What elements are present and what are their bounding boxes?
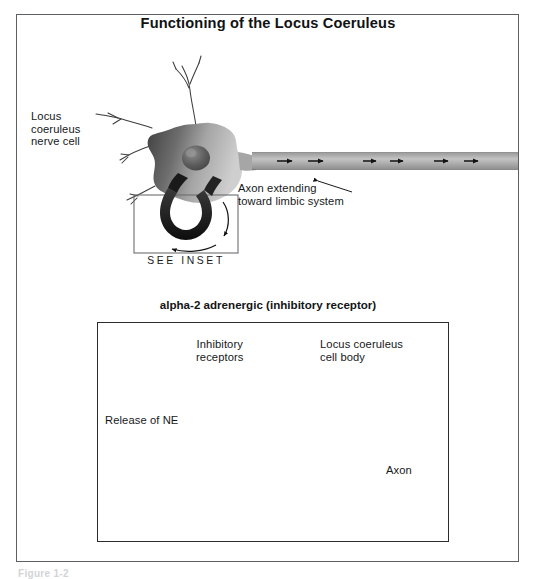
label-axon-extending: Axon extending toward limbic system: [238, 182, 344, 207]
label-inset-axon: Axon: [386, 464, 412, 477]
figure-caption: Figure 1-2: [18, 568, 69, 579]
figure-root: Functioning of the Locus Coeruleus: [0, 0, 536, 579]
label-locus-coeruleus-nerve-cell: Locus coeruleus nerve cell: [31, 110, 80, 148]
label-release-of-ne: Release of NE: [105, 414, 178, 427]
label-see-inset: SEE INSET: [133, 255, 239, 266]
label-inhibitory-receptors: Inhibitory receptors: [196, 338, 244, 363]
inset-title: alpha-2 adrenergic (inhibitory receptor): [0, 298, 536, 311]
page-title: Functioning of the Locus Coeruleus: [0, 15, 536, 31]
label-locus-coeruleus-cell-body: Locus coeruleus cell body: [320, 338, 403, 363]
